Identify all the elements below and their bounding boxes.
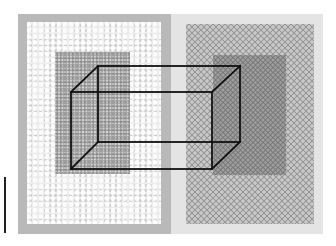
cube-back-face <box>98 66 240 142</box>
cube-front-face <box>71 92 212 169</box>
cube-edge-top-right <box>212 66 240 92</box>
cube-edge-bottom-left <box>71 142 98 169</box>
wireframe-cube <box>0 0 336 246</box>
cube-edge-bottom-right <box>212 142 240 169</box>
cube-edge-top-left <box>71 66 98 92</box>
